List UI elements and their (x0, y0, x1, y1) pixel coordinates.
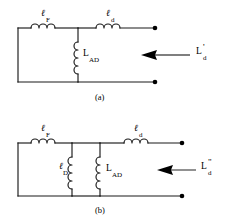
circuit-diagram-svg: ℓ F ℓ d L AD L ' d (a) (0, 0, 231, 220)
inductor-a-ld (96, 24, 120, 28)
label-b-LAD-sub: AD (112, 171, 122, 179)
caption-panel-b: (b) (95, 205, 105, 215)
equivalent-circuit-figure: ℓ F ℓ d L AD L ' d (a) (0, 0, 231, 220)
label-a-ld-main: ℓ (106, 8, 110, 18)
label-a-ld-sub: d (111, 16, 115, 24)
arrow-head-b (157, 165, 173, 175)
terminal-dot-b-top (180, 141, 185, 146)
label-a-lF-sub: F (46, 16, 50, 24)
inductor-b-LAD (96, 157, 100, 189)
label-b-ld-sub: d (139, 131, 143, 139)
label-a-LAD-sub: AD (89, 56, 99, 64)
label-b-ld-main: ℓ (134, 123, 138, 133)
terminal-dot-a-bottom (153, 80, 158, 85)
label-b-lD-sub: D (63, 169, 68, 177)
label-a-lF-main: ℓ (41, 8, 45, 18)
label-b-lF-main: ℓ (41, 123, 45, 133)
inductor-b-ld (124, 139, 148, 143)
inductor-a-LAD (74, 42, 78, 74)
label-b-Ld-prime: " (208, 157, 212, 167)
arrow-head-a (141, 50, 157, 60)
terminal-dot-a-top (153, 26, 158, 31)
label-b-lF-sub: F (46, 131, 50, 139)
panel-b-group: ℓ F ℓ d ℓ D L AD L " d (b) (18, 123, 212, 215)
label-b-Ld-main: L (201, 161, 207, 171)
inductor-a-lF (31, 24, 55, 28)
label-a-Ld-main: L (196, 46, 202, 56)
label-b-Ld-sub: d (208, 169, 212, 177)
inductor-b-lF (31, 139, 55, 143)
panel-a-group: ℓ F ℓ d L AD L ' d (a) (18, 8, 207, 102)
caption-panel-a: (a) (95, 92, 105, 102)
label-a-Ld-prime: ' (203, 42, 205, 52)
inductor-b-lD (68, 157, 72, 189)
label-a-Ld-sub: d (203, 54, 207, 62)
terminal-dot-b-bottom (180, 194, 185, 199)
